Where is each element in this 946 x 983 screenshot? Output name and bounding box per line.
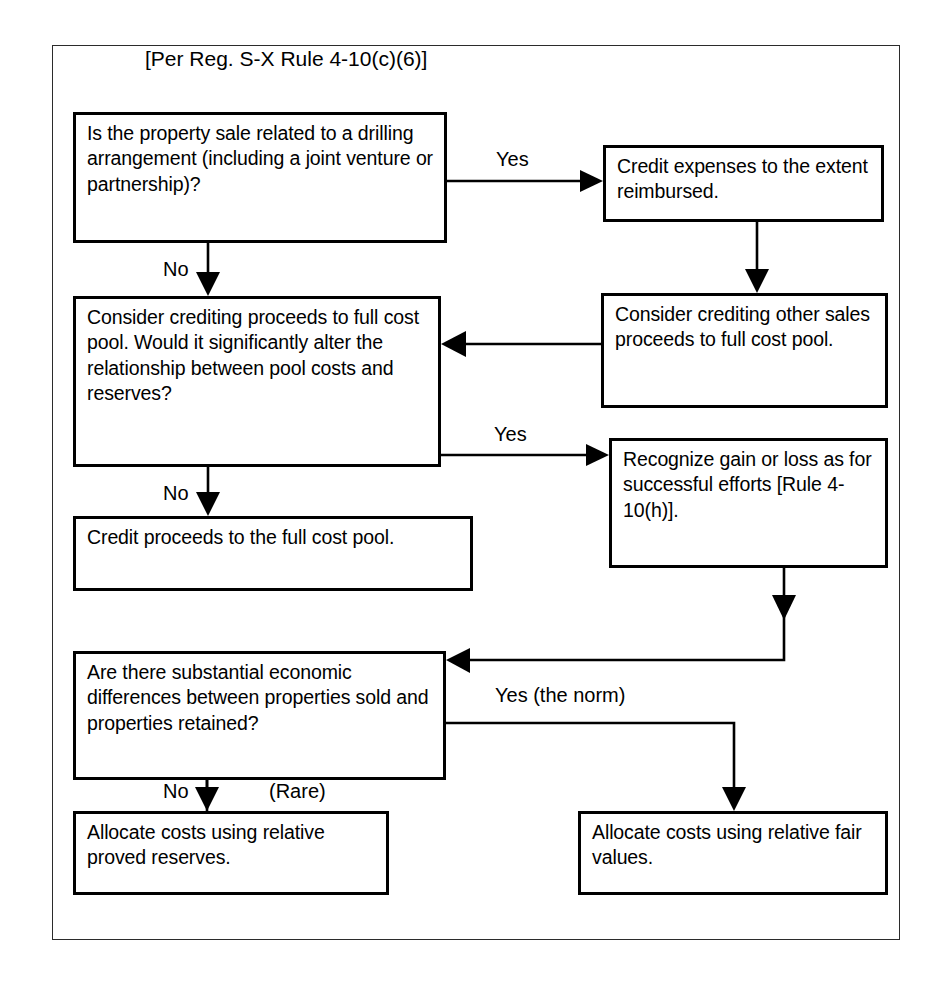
flowchart-page: [Per Reg. S-X Rule 4-10(c)(6)] Is the pr… — [0, 0, 946, 983]
edge-label-rare: (Rare) — [269, 780, 326, 803]
edge-label-no-top: No — [163, 258, 189, 281]
node-credit-expenses[interactable]: Credit expenses to the extent reimbursed… — [603, 145, 884, 222]
chart-title: [Per Reg. S-X Rule 4-10(c)(6)] — [145, 47, 427, 71]
edge-label-no-mid: No — [163, 482, 189, 505]
node-credit-proceeds-full-cost-pool[interactable]: Credit proceeds to the full cost pool. — [73, 516, 473, 591]
node-allocate-costs-fair-values[interactable]: Allocate costs using relative fair value… — [578, 811, 888, 895]
node-property-sale-question[interactable]: Is the property sale related to a drilli… — [73, 112, 447, 243]
node-economic-differences-question[interactable]: Are there substantial economic differenc… — [73, 651, 446, 780]
edge-label-yes-top: Yes — [496, 148, 529, 171]
node-consider-crediting-other-sales[interactable]: Consider crediting other sales proceeds … — [601, 293, 888, 408]
edge-label-yes-the-norm: Yes (the norm) — [495, 684, 625, 707]
edge-label-no-bottom: No — [163, 780, 189, 803]
node-allocate-costs-proved-reserves[interactable]: Allocate costs using relative proved res… — [73, 811, 389, 895]
node-consider-crediting-proceeds-question[interactable]: Consider crediting proceeds to full cost… — [73, 296, 441, 467]
edge-label-yes-mid: Yes — [494, 423, 527, 446]
node-recognize-gain-or-loss[interactable]: Recognize gain or loss as for successful… — [609, 438, 888, 568]
